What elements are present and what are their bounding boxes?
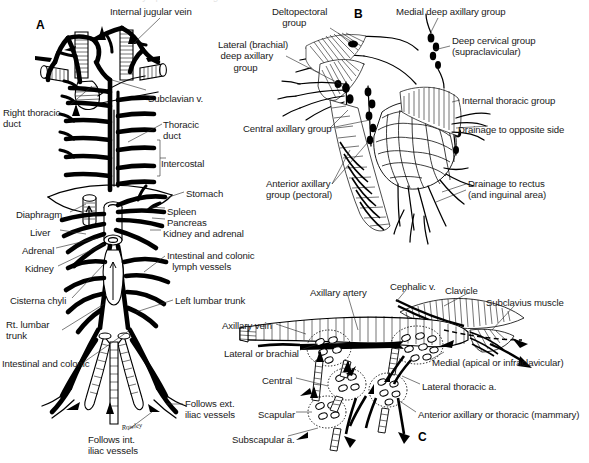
thoracic-arteries	[346, 356, 411, 434]
label-medial-deep-axillary-group: Medial deep axillary group	[396, 6, 505, 17]
label-diaphragm: Diaphragm	[16, 209, 62, 220]
label-drainage-to-rectus: Drainage to rectus (and inguinal area)	[468, 178, 546, 201]
label-central-axillary-group: Central axillary group	[243, 123, 331, 134]
label-intercostal: Intercostal	[161, 158, 204, 169]
label-kidney: Kidney	[25, 263, 54, 274]
thoracic-duct-trunk	[110, 80, 118, 190]
lymphatic-anatomy-figure: lymphatic drainage	[0, 0, 589, 463]
panel-letter-b: B	[354, 7, 363, 21]
label-right-lumbar-trunk: Rt. lumbar trunk	[6, 319, 49, 342]
label-anterior-axillary-group-pectoral: Anterior axillary group (pectoral)	[266, 178, 332, 201]
label-spleen: Spleen	[167, 206, 196, 217]
label-stomach: Stomach	[186, 188, 223, 199]
label-thoracic-duct: Thoracic duct	[163, 119, 199, 142]
deltopectoral-node	[348, 41, 358, 48]
label-right-thoracic-duct: Right thoracic duct	[3, 107, 60, 130]
lateral-drainage-vessel	[444, 168, 468, 170]
label-subscapular-artery: Subscapular a.	[232, 434, 295, 445]
label-axillary-artery: Axillary artery	[310, 287, 367, 298]
intercostal-vessels-right	[118, 98, 154, 184]
label-internal-jugular-vein: Internal jugular vein	[110, 6, 192, 17]
label-cephalic-vein: Cephalic v.	[390, 281, 436, 292]
label-pancreas: Pancreas	[167, 217, 207, 228]
label-lateral-thoracic-artery: Lateral thoracic a.	[422, 381, 496, 392]
figure-artwork: Rowley	[0, 0, 589, 463]
label-scapular: Scapular	[258, 409, 295, 420]
label-subclavius-muscle: Subclavius muscle	[486, 297, 564, 308]
brachial-node	[335, 80, 342, 88]
panel-letter-a: A	[36, 18, 45, 32]
label-intestinal-colonic-lymph-vessels: Intestinal and colonic lymph vessels	[167, 250, 254, 273]
artist-signature: Rowley	[120, 421, 143, 432]
axillary-artery-left	[258, 344, 300, 346]
label-liver: Liver	[30, 227, 50, 238]
deep-cervical-node-chain	[426, 14, 444, 88]
label-follows-int-iliac-vessels: Follows int. iliac vessels	[88, 434, 138, 457]
label-clavicle: Clavicle	[445, 285, 478, 296]
label-drainage-to-opposite-side: Drainage to opposite side	[458, 124, 564, 135]
label-lateral-brachial-deep-axillary-group: Lateral (brachial) deep axillary group	[218, 39, 288, 73]
label-lateral-or-brachial: Lateral or brachial	[224, 348, 299, 359]
label-adrenal: Adrenal	[22, 245, 54, 256]
label-left-lumbar-trunk: Left lumbar trunk	[175, 295, 245, 306]
label-kidney-and-adrenal: Kidney and adrenal	[163, 228, 244, 239]
label-medial-apical-or-infraclavicular: Medial (apical or infraclavicular)	[432, 357, 564, 368]
panel-letter-c: C	[418, 430, 427, 444]
pectoralis-sheet	[318, 60, 364, 101]
aorta-cut-rings	[104, 202, 122, 245]
lumbar-vessels-right	[124, 259, 168, 326]
panel-c-flow-arrows	[296, 338, 528, 448]
axillary-vein-tube	[240, 316, 468, 347]
label-axillary-vein: Axillary vein	[222, 320, 272, 331]
label-cisterna-chyli: Cisterna chyli	[10, 295, 66, 306]
label-subclavian-vein: Subclavian v.	[148, 93, 203, 104]
label-follows-ext-iliac-vessels: Follows ext. iliac vessels	[185, 398, 235, 421]
label-internal-thoracic-group: Internal thoracic group	[462, 95, 555, 106]
label-anterior-axillary-or-thoracic-mammary: Anterior axillary or thoracic (mammary)	[418, 409, 579, 420]
label-central: Central	[262, 375, 292, 386]
label-intestinal-and-colonic: Intestinal and colonic	[2, 358, 89, 369]
label-deltopectoral-group: Deltopectoral group	[272, 6, 327, 29]
label-deep-cervical-group: Deep cervical group (supraclavicular)	[452, 35, 535, 58]
